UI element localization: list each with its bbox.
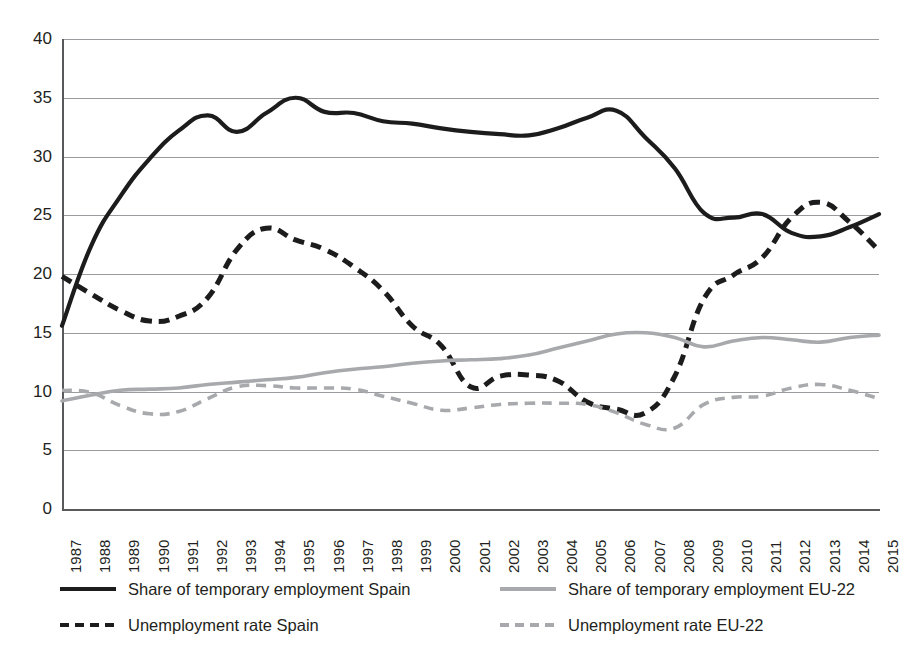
legend-label: Share of temporary employment Spain	[128, 580, 410, 598]
x-axis-tick-label: 2014	[856, 540, 871, 573]
x-axis-line	[62, 509, 880, 511]
legend-swatch-dash-dark-icon	[60, 618, 116, 632]
y-axis-tick-label: 20	[6, 265, 52, 282]
x-axis-tick-label: 1995	[301, 540, 316, 573]
legend-swatch-solid-gray-icon	[500, 582, 556, 596]
y-axis-tick-label: 30	[6, 148, 52, 165]
x-axis-tick-label: 1998	[389, 540, 404, 573]
x-axis-tick-label: 2004	[564, 540, 579, 573]
gridline	[62, 333, 879, 334]
gridline	[62, 450, 879, 451]
gridline	[62, 98, 879, 99]
x-axis-tick-label: 2003	[535, 540, 550, 573]
gridline	[62, 274, 879, 275]
legend-item[interactable]: Unemployment rate Spain	[60, 612, 319, 638]
x-axis-tick-label: 1987	[68, 540, 83, 573]
x-axis-tick-label: 1992	[214, 540, 229, 573]
y-axis-tick-label: 40	[6, 30, 52, 47]
series-line-1	[62, 202, 879, 415]
x-axis-tick-label: 2005	[593, 540, 608, 573]
chart-legend: Share of temporary employment SpainShare…	[0, 576, 898, 648]
x-axis-tick-label: 2001	[477, 540, 492, 573]
x-axis-tick-label: 1989	[126, 540, 141, 573]
x-axis-tick-label: 2011	[768, 541, 783, 573]
y-axis-tick-label: 10	[6, 383, 52, 400]
x-axis-tick-label: 2012	[797, 540, 812, 573]
x-axis-tick-label: 2007	[652, 540, 667, 573]
legend-swatch-solid-dark-icon	[60, 582, 116, 596]
y-axis-tick-label: 0	[6, 500, 52, 517]
gridline	[62, 392, 879, 393]
gridline	[62, 215, 879, 216]
x-axis-tick-label: 2015	[885, 540, 900, 573]
x-axis-tick-label: 2010	[739, 540, 754, 573]
gridline	[62, 157, 879, 158]
x-axis-tick-label: 1999	[418, 540, 433, 573]
y-axis-tick-label: 25	[6, 206, 52, 223]
legend-label: Share of temporary employment EU-22	[568, 580, 855, 598]
x-axis-tick-label: 2009	[710, 540, 725, 573]
gridline	[62, 39, 879, 40]
legend-item[interactable]: Share of temporary employment Spain	[60, 576, 410, 602]
series-line-0	[62, 98, 879, 326]
legend-item[interactable]: Share of temporary employment EU-22	[500, 576, 855, 602]
legend-item[interactable]: Unemployment rate EU-22	[500, 612, 763, 638]
y-axis-tick-label: 35	[6, 89, 52, 106]
x-axis-tick-label: 1991	[185, 540, 200, 573]
legend-label: Unemployment rate EU-22	[568, 616, 763, 634]
x-axis-tick-label: 1994	[272, 540, 287, 573]
x-axis-tick-label: 1988	[97, 540, 112, 573]
x-axis-tick-label: 2008	[681, 540, 696, 573]
x-axis-tick-label: 1990	[156, 540, 171, 573]
x-axis-tick-label: 2006	[622, 540, 637, 573]
x-axis-tick-label: 2002	[506, 540, 521, 573]
x-axis-tick-label: 1996	[331, 540, 346, 573]
x-axis-tick-label: 1997	[360, 540, 375, 573]
y-axis-tick-label: 15	[6, 324, 52, 341]
legend-label: Unemployment rate Spain	[128, 616, 319, 634]
y-axis-line	[62, 39, 64, 510]
y-axis-tick-label: 5	[6, 441, 52, 458]
x-axis-tick-label: 2013	[827, 540, 842, 573]
legend-swatch-dash-gray-icon	[500, 618, 556, 632]
x-axis-tick-label: 1993	[243, 540, 258, 573]
x-axis-tick-label: 2000	[447, 540, 462, 573]
